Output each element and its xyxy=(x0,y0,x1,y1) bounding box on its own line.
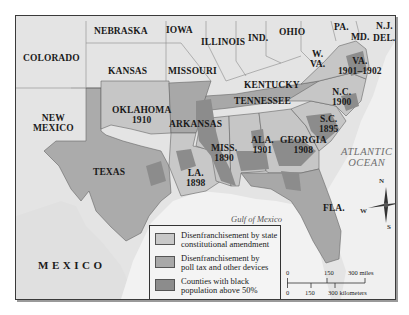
gulf-of-mexico-label: Gulf of Mexico xyxy=(231,214,282,224)
legend-swatch xyxy=(155,256,175,268)
scale-mile-0: 0 xyxy=(286,269,289,276)
state-label-delaware: DEL. xyxy=(373,33,395,43)
atlantic-ocean-label: ATLANTIC OCEAN xyxy=(341,146,392,168)
legend-line2: constitutional amendment xyxy=(181,240,277,249)
state-label-mississippi: MISS. 1890 xyxy=(211,143,237,163)
state-year: 1900 xyxy=(332,97,351,107)
state-label-florida: FLA. xyxy=(323,203,345,213)
state-label-virginia: VA. 1901–1902 xyxy=(338,56,382,76)
scale-mile-300: 300 miles xyxy=(348,269,373,276)
legend-item-constitutional: Disenfranchisement by state constitution… xyxy=(155,231,277,249)
scale-line xyxy=(287,278,367,288)
state-name: W. xyxy=(310,49,325,59)
state-label-arkansas: ARKANSAS xyxy=(169,119,222,129)
legend-swatch xyxy=(155,279,175,291)
map-frame: NEBRASKA IOWA ILLINOIS IND. OHIO PA. N.J… xyxy=(15,15,396,300)
mexico-label: MEXICO xyxy=(38,259,105,271)
scale-km-150: 150 xyxy=(305,289,315,296)
legend-text: Counties with black population above 50% xyxy=(181,277,257,295)
state-name: N.C. xyxy=(332,87,351,97)
state-name: NEW xyxy=(33,113,74,123)
state-label-georgia: GEORGIA 1908 xyxy=(280,135,327,155)
state-year: 1901–1902 xyxy=(338,66,382,76)
scale-km-300: 300 kilometers xyxy=(328,289,367,296)
legend-line2: population above 50% xyxy=(181,286,257,295)
state-year: 1901 xyxy=(251,145,274,155)
state-label-missouri: MISSOURI xyxy=(168,66,217,76)
state-label-indiana: IND. xyxy=(248,33,268,43)
scale-bar: 0 150 300 miles 0 150 300 kilometers xyxy=(286,269,376,299)
state-label-nebraska: NEBRASKA xyxy=(94,26,148,36)
state-label-louisiana: LA. 1898 xyxy=(186,168,205,188)
compass-south: S xyxy=(387,223,391,231)
state-label-iowa: IOWA xyxy=(166,25,193,35)
state-label-alabama: ALA. 1901 xyxy=(251,135,274,155)
state-label-north-carolina: N.C. 1900 xyxy=(332,87,351,107)
state-year: 1895 xyxy=(319,124,338,134)
state-label-kansas: KANSAS xyxy=(108,66,147,76)
state-label-texas: TEXAS xyxy=(93,167,125,177)
state-label-south-carolina: S.C. 1895 xyxy=(319,114,338,134)
legend-text: Disenfranchisement by poll tax and other… xyxy=(181,254,268,272)
ocean-line1: ATLANTIC xyxy=(341,146,392,157)
state-label-illinois: ILLINOIS xyxy=(201,37,245,47)
state-name: MISS. xyxy=(211,143,237,153)
state-name: VA. xyxy=(338,56,382,66)
state-year: 1910 xyxy=(112,115,171,125)
state-name: S.C. xyxy=(319,114,338,124)
compass-north: N xyxy=(379,177,384,185)
state-label-new-mexico: NEW MEXICO xyxy=(33,113,74,133)
state-label-west-virginia: W. VA. xyxy=(310,49,325,69)
state-label-new-jersey: N.J. xyxy=(376,21,393,31)
map-legend: Disenfranchisement by state constitution… xyxy=(149,225,281,300)
state-name: ALA. xyxy=(251,135,274,145)
state-name: GEORGIA xyxy=(280,135,327,145)
state-label-ohio: OHIO xyxy=(279,27,305,37)
scale-mile-150: 150 xyxy=(324,269,334,276)
scale-km-0: 0 xyxy=(286,289,289,296)
state-year: 1898 xyxy=(186,178,205,188)
state-label-pennsylvania: PA. xyxy=(334,22,349,32)
state-label-oklahoma: OKLAHOMA 1910 xyxy=(112,105,171,125)
ocean-line2: OCEAN xyxy=(341,157,392,168)
compass-west: W xyxy=(360,207,367,215)
legend-swatch xyxy=(155,233,175,245)
state-name: OKLAHOMA xyxy=(112,105,171,115)
state-name-line2: MEXICO xyxy=(33,123,74,133)
state-name-line2: VA. xyxy=(310,59,325,69)
legend-item-black-majority: Counties with black population above 50% xyxy=(155,277,257,295)
compass-rose-icon: N S E W xyxy=(364,183,396,227)
legend-text: Disenfranchisement by state constitution… xyxy=(181,231,277,249)
state-label-kentucky: KENTUCKY xyxy=(244,80,300,90)
state-year: 1890 xyxy=(211,153,237,163)
state-name: LA. xyxy=(186,168,205,178)
state-label-maryland: MD. xyxy=(351,32,370,42)
legend-item-poll-tax: Disenfranchisement by poll tax and other… xyxy=(155,254,268,272)
state-label-colorado: COLORADO xyxy=(23,53,80,63)
legend-line2: poll tax and other devices xyxy=(181,263,268,272)
state-year: 1908 xyxy=(280,145,327,155)
state-label-tennessee: TENNESSEE xyxy=(234,96,291,106)
